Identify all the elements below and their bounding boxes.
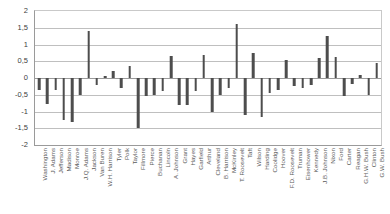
bar-slot (274, 11, 282, 145)
bar[interactable] (244, 78, 247, 115)
x-tick-label: G.W. Bush (379, 148, 386, 178)
bar[interactable] (153, 78, 156, 95)
bar-slot (282, 11, 290, 145)
bar-slot (93, 11, 101, 145)
bar-slot (348, 11, 356, 145)
bar-slot (307, 11, 315, 145)
bar[interactable] (301, 78, 304, 88)
y-tick-label: 1 (0, 41, 28, 49)
bar[interactable] (63, 78, 66, 120)
x-tick-label: Jefferson (58, 148, 65, 173)
x-tick-label: F.D. Roosevelt (289, 148, 296, 188)
x-tick-label: Carter (346, 148, 353, 165)
bar[interactable] (194, 78, 197, 91)
bar[interactable] (186, 78, 189, 105)
bar[interactable] (260, 78, 263, 117)
bar[interactable] (79, 78, 82, 95)
bar-slot (117, 11, 125, 145)
x-tick-label: Hoover (280, 148, 287, 168)
bar[interactable] (227, 78, 230, 88)
y-tick-label: -2 (0, 141, 28, 149)
bar[interactable] (318, 58, 321, 78)
x-tick-label: Coolidge (272, 148, 279, 172)
x-tick-label: J.B. Johnson (322, 148, 329, 184)
x-tick-label: Arthur (206, 148, 213, 165)
bar[interactable] (170, 56, 173, 78)
x-tick-label: Polk (124, 148, 131, 160)
x-tick-label: Buchanan (157, 148, 164, 176)
x-tick-label: Van Buren (99, 148, 106, 177)
x-tick-label: Fillmore (140, 148, 147, 170)
bar-slot (84, 11, 92, 145)
bar[interactable] (46, 78, 49, 104)
x-tick-label: Taft (247, 148, 254, 158)
bar[interactable] (54, 78, 57, 90)
bar[interactable] (128, 66, 131, 78)
bar-chart: 21,510,50-0,5-1-1,5-2 WashingtonJ. Adams… (0, 0, 390, 214)
bar-slot (60, 11, 68, 145)
bar-slot (323, 11, 331, 145)
x-tick-label: Pierce (149, 148, 156, 166)
bar[interactable] (120, 78, 123, 88)
bar-slot (76, 11, 84, 145)
bar[interactable] (343, 78, 346, 96)
bar-slot (290, 11, 298, 145)
x-tick-label: Madison (66, 148, 73, 171)
bar[interactable] (161, 78, 164, 91)
bar[interactable] (326, 36, 329, 78)
x-tick-label: A. Johnson (173, 148, 180, 179)
x-tick-label: Harding (264, 148, 271, 170)
x-tick-label: Eisenhower (305, 148, 312, 180)
x-tick-label: Washington (42, 148, 49, 180)
bar[interactable] (211, 78, 214, 112)
x-tick-label: Cleveland (215, 148, 222, 176)
bar[interactable] (376, 63, 379, 78)
bar[interactable] (351, 78, 354, 84)
bar[interactable] (137, 78, 140, 128)
bar[interactable] (178, 78, 181, 105)
bar[interactable] (112, 71, 115, 78)
bar-slot (340, 11, 348, 145)
bar[interactable] (293, 78, 296, 86)
bar[interactable] (268, 78, 271, 93)
x-tick-label: Grant (182, 148, 189, 163)
x-tick-label: W.H. Harrison (107, 148, 114, 187)
bar-slot (216, 11, 224, 145)
bar[interactable] (104, 76, 107, 78)
bar-slot (266, 11, 274, 145)
bar[interactable] (38, 78, 41, 90)
bar-slot (126, 11, 134, 145)
bar[interactable] (277, 78, 280, 90)
bar-slot (332, 11, 340, 145)
bar[interactable] (359, 75, 362, 78)
bar[interactable] (71, 78, 74, 122)
bar[interactable] (145, 78, 148, 96)
bar-slot (299, 11, 307, 145)
bar[interactable] (285, 60, 288, 78)
bar[interactable] (203, 55, 206, 78)
bar[interactable] (236, 24, 239, 78)
y-tick-label: 0,5 (0, 57, 28, 65)
bar[interactable] (87, 31, 90, 78)
bar[interactable] (95, 78, 98, 85)
bar[interactable] (219, 78, 222, 95)
bar[interactable] (334, 57, 337, 78)
bar[interactable] (310, 78, 313, 85)
y-tick-label: -1 (0, 108, 28, 116)
bar-slot (356, 11, 364, 145)
bar-series (35, 11, 381, 145)
x-tick-label: B. Harrison (223, 148, 230, 179)
bar[interactable] (367, 78, 370, 95)
y-tick-label: -0,5 (0, 91, 28, 99)
x-tick-label: Monroe (74, 148, 81, 169)
y-tick-label: 1,5 (0, 24, 28, 32)
y-axis: 21,510,50-0,5-1-1,5-2 (0, 10, 30, 146)
x-tick-label: Kennedy (313, 148, 320, 172)
x-axis-labels: WashingtonJ. AdamsJeffersonMadisonMonroe… (35, 148, 381, 214)
bar-slot (142, 11, 150, 145)
x-tick-label: McKinley (231, 148, 238, 173)
bar-slot (373, 11, 381, 145)
bar[interactable] (252, 53, 255, 78)
bar-slot (249, 11, 257, 145)
x-tick-label: J. Adams (50, 148, 57, 173)
